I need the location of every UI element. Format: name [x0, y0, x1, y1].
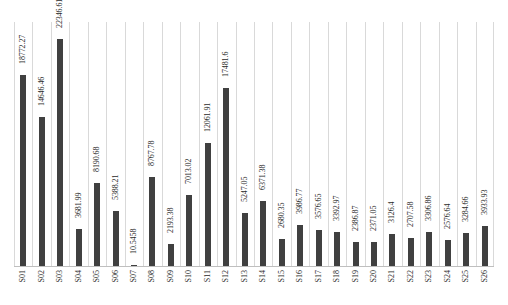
bar[interactable] — [168, 244, 174, 266]
bar[interactable] — [205, 143, 211, 266]
bar-value-label: 3986.77 — [296, 189, 304, 214]
bar[interactable] — [463, 233, 469, 266]
bar-value-label: 2386.87 — [352, 206, 360, 231]
bar[interactable] — [39, 117, 45, 266]
x-tick-label: S08 — [148, 270, 156, 282]
x-tick-s03: S03 — [51, 268, 69, 300]
bar-group[interactable]: 22346.61 — [51, 22, 69, 266]
bar-value-label: 5247.05 — [241, 177, 249, 202]
x-tick-label: S18 — [333, 270, 341, 282]
bar[interactable] — [20, 75, 26, 266]
bar[interactable] — [279, 239, 285, 266]
bar[interactable] — [316, 230, 322, 266]
bar[interactable] — [389, 234, 395, 266]
bar-group[interactable]: 3392.97 — [328, 22, 346, 266]
bar[interactable] — [113, 211, 119, 266]
plot-area: 18772.2714646.4622346.613681.998190.6853… — [14, 22, 494, 266]
x-axis-tick-labels: S01S02S03S04S05S06S07S08S09S10S11S12S13S… — [14, 268, 494, 300]
x-tick-label: S16 — [296, 270, 304, 282]
x-tick-s13: S13 — [236, 268, 254, 300]
bar-group[interactable]: 5388.21 — [106, 22, 124, 266]
x-tick-s24: S24 — [439, 268, 457, 300]
bar-group[interactable]: 12061.91 — [199, 22, 217, 266]
x-tick-s08: S08 — [143, 268, 161, 300]
bar[interactable] — [149, 177, 155, 266]
x-tick-label: S13 — [241, 270, 249, 282]
bar-value-label: 2371.05 — [370, 206, 378, 231]
bar-group[interactable]: 3284.66 — [457, 22, 475, 266]
bar-group[interactable]: 10.5458 — [125, 22, 143, 266]
bar-value-label: 8767.78 — [148, 141, 156, 166]
x-tick-s02: S02 — [32, 268, 50, 300]
bar-value-label: 18772.27 — [19, 35, 27, 64]
x-tick-label: S21 — [388, 270, 396, 282]
bar-value-label: 6371.38 — [259, 165, 267, 190]
x-tick-s18: S18 — [328, 268, 346, 300]
x-tick-s14: S14 — [254, 268, 272, 300]
bar-group[interactable]: 2386.87 — [346, 22, 364, 266]
bar-group[interactable]: 18772.27 — [14, 22, 32, 266]
bar-group[interactable]: 3126.4 — [383, 22, 401, 266]
bar-value-label: 3284.66 — [462, 197, 470, 222]
bar-group[interactable]: 2680.35 — [272, 22, 290, 266]
bar-group[interactable]: 2707.58 — [402, 22, 420, 266]
x-tick-label: S03 — [56, 270, 64, 282]
bar-group[interactable]: 6371.38 — [254, 22, 272, 266]
x-tick-label: S10 — [185, 270, 193, 282]
bar-value-label: 14646.46 — [38, 77, 46, 106]
bar[interactable] — [353, 242, 359, 266]
x-tick-label: S04 — [75, 270, 83, 282]
bar-group[interactable]: 17481.6 — [217, 22, 235, 266]
x-tick-label: S07 — [130, 270, 138, 282]
bar-group[interactable]: 2371.05 — [365, 22, 383, 266]
bar-group[interactable]: 3933.93 — [476, 22, 494, 266]
x-tick-label: S14 — [259, 270, 267, 282]
bar[interactable] — [426, 232, 432, 266]
x-tick-s23: S23 — [420, 268, 438, 300]
x-tick-s21: S21 — [383, 268, 401, 300]
bar[interactable] — [223, 88, 229, 266]
bar[interactable] — [334, 232, 340, 266]
x-tick-label: S12 — [222, 270, 230, 282]
x-tick-label: S09 — [167, 270, 175, 282]
x-tick-label: S06 — [112, 270, 120, 282]
x-tick-label: S05 — [93, 270, 101, 282]
bar-group[interactable]: 7013.02 — [180, 22, 198, 266]
bar-group[interactable]: 8190.68 — [88, 22, 106, 266]
bar-group[interactable]: 3576.65 — [309, 22, 327, 266]
bar-group[interactable]: 14646.46 — [32, 22, 50, 266]
category-axis-line — [14, 266, 494, 267]
bar[interactable] — [371, 242, 377, 266]
bar[interactable] — [94, 183, 100, 266]
bar-value-label: 22346.61 — [56, 0, 64, 28]
bar-group[interactable]: 2576.64 — [439, 22, 457, 266]
bar-value-label: 3933.93 — [481, 190, 489, 215]
bar[interactable] — [76, 229, 82, 266]
bar-group[interactable]: 3306.86 — [420, 22, 438, 266]
x-tick-label: S19 — [352, 270, 360, 282]
bar[interactable] — [408, 238, 414, 266]
bar[interactable] — [297, 225, 303, 266]
bar[interactable] — [260, 201, 266, 266]
bar[interactable] — [445, 240, 451, 266]
x-tick-s19: S19 — [346, 268, 364, 300]
x-tick-s22: S22 — [402, 268, 420, 300]
x-tick-s16: S16 — [291, 268, 309, 300]
x-tick-s15: S15 — [272, 268, 290, 300]
x-tick-label: S26 — [481, 270, 489, 282]
bar-group[interactable]: 3986.77 — [291, 22, 309, 266]
bar-group[interactable]: 3681.99 — [69, 22, 87, 266]
bar-group[interactable]: 2193.38 — [162, 22, 180, 266]
bar[interactable] — [57, 39, 63, 266]
bar[interactable] — [482, 226, 488, 266]
bar-group[interactable]: 5247.05 — [236, 22, 254, 266]
x-tick-s07: S07 — [125, 268, 143, 300]
x-tick-s12: S12 — [217, 268, 235, 300]
bar-chart: 18772.2714646.4622346.613681.998190.6853… — [0, 0, 508, 305]
x-tick-s06: S06 — [106, 268, 124, 300]
bar-group[interactable]: 8767.78 — [143, 22, 161, 266]
x-tick-label: S20 — [370, 270, 378, 282]
bar-value-label: 3126.4 — [388, 202, 396, 223]
bar[interactable] — [186, 195, 192, 266]
bar[interactable] — [242, 213, 248, 266]
